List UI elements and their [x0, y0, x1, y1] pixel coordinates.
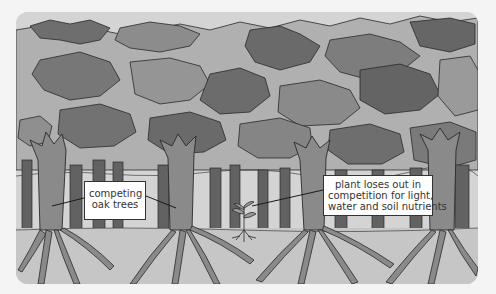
label-line: water and soil nutrients [328, 201, 428, 212]
canopy [16, 16, 478, 170]
label-line: competition for light, [328, 190, 428, 201]
label-line: oak trees [89, 199, 141, 210]
illustration-frame [16, 12, 478, 284]
plant-competition-label: plant loses out in competition for light… [323, 175, 433, 216]
label-line: plant loses out in [328, 179, 428, 190]
competing-oak-trees-label: competing oak trees [84, 181, 146, 220]
label-line: competing [89, 188, 141, 199]
forest-illustration [16, 12, 478, 284]
